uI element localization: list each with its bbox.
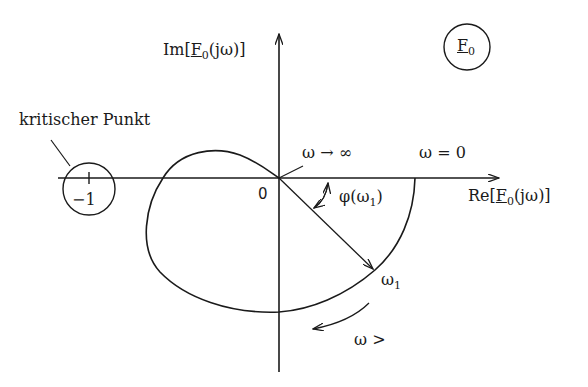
- critical-point-leader: [51, 140, 70, 166]
- phase-prefix: φ(ω: [339, 187, 370, 206]
- real-F: F: [496, 186, 507, 205]
- imaginary-axis-label: Im[F0(jω)]: [163, 42, 246, 58]
- origin-label: 0: [258, 187, 268, 202]
- symbol-F: F: [457, 36, 468, 55]
- imag-sub: 0: [202, 49, 209, 62]
- real-prefix: Re[: [468, 186, 496, 205]
- real-suffix: (jω)]: [514, 186, 551, 205]
- critical-point-value: −1: [72, 192, 96, 208]
- real-axis-label: Re[F0(jω)]: [468, 188, 551, 204]
- imag-prefix: Im[: [163, 40, 191, 59]
- critical-point-caption: kritischer Punkt: [19, 112, 150, 128]
- imag-suffix: (jω)]: [209, 40, 246, 59]
- symbol-sub: 0: [468, 45, 475, 58]
- omega1-sub: 1: [394, 279, 401, 292]
- omega-infinity-pointer: [279, 166, 303, 178]
- phase-angle-arc-reverse: [314, 183, 328, 208]
- phase-label: φ(ω1): [339, 189, 383, 205]
- transfer-function-symbol: F0: [457, 38, 475, 54]
- direction-arrow: [313, 303, 369, 329]
- imag-F: F: [191, 40, 202, 59]
- omega-infinity-label: ω → ∞: [302, 145, 352, 161]
- nyquist-curve: [146, 151, 415, 312]
- phase-suffix: ): [377, 187, 383, 206]
- omega-increasing-label: ω >: [354, 332, 386, 348]
- omega1-main: ω: [381, 270, 394, 289]
- phase-sub: 1: [370, 196, 377, 209]
- omega1-label: ω1: [381, 272, 401, 288]
- omega-zero-label: ω = 0: [419, 145, 466, 161]
- phase-angle-arc: [314, 183, 328, 208]
- real-sub: 0: [507, 195, 514, 208]
